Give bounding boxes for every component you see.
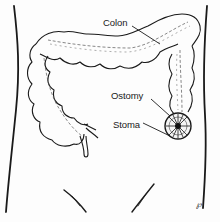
anatomy-illustration xyxy=(0,0,220,222)
artist-signature: ℘ xyxy=(196,200,202,209)
torso-outline xyxy=(6,6,207,212)
groin-lines xyxy=(64,184,154,212)
colon-label: Colon xyxy=(103,18,127,28)
ostomy-label: Ostomy xyxy=(111,91,143,101)
descending-colon xyxy=(169,46,194,114)
stoma-label: Stoma xyxy=(113,120,140,130)
colostomy-diagram: Colon Ostomy Stoma ℘ xyxy=(0,0,220,222)
